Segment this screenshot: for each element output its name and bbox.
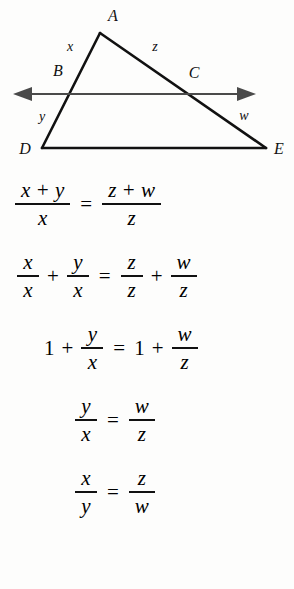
fraction-term-3: z z bbox=[121, 251, 143, 302]
fraction-left-4: y x bbox=[75, 395, 97, 446]
arrow-left-icon bbox=[13, 87, 32, 101]
numerator: x bbox=[17, 251, 38, 276]
plus-sign: + bbox=[147, 336, 169, 361]
equation-row-1: x + y x = z + w z bbox=[0, 168, 294, 240]
segment-label-x: x bbox=[66, 39, 74, 54]
denominator: z bbox=[174, 349, 194, 374]
numerator: y bbox=[75, 395, 96, 420]
fraction-term-2: y x bbox=[67, 251, 89, 302]
denominator: x bbox=[82, 349, 103, 374]
numerator: w bbox=[172, 323, 198, 348]
numerator: w bbox=[171, 251, 197, 276]
denominator: z bbox=[173, 277, 193, 302]
denominator: x bbox=[67, 277, 88, 302]
fraction-right-4: w z bbox=[129, 395, 155, 446]
equation-row-5: x y = z w bbox=[0, 456, 294, 528]
equation-row-2: x x + y x = z z + w z bbox=[0, 240, 294, 312]
denominator: x bbox=[17, 277, 38, 302]
arrow-right-icon bbox=[237, 87, 256, 101]
segment-label-w: w bbox=[239, 108, 249, 123]
fraction-left-5: x y bbox=[75, 467, 97, 518]
geometry-figure: A B C D E x z y w bbox=[0, 0, 294, 170]
equation-list: x + y x = z + w z x x + y x = z z + bbox=[0, 168, 294, 528]
denominator: y bbox=[75, 493, 96, 518]
denominator: x bbox=[75, 421, 96, 446]
segment-label-z: z bbox=[151, 39, 158, 54]
numerator: z bbox=[132, 467, 152, 492]
vertex-label-D: D bbox=[18, 140, 31, 157]
equals-sign: = bbox=[100, 408, 126, 433]
denominator: z bbox=[122, 277, 142, 302]
segment-label-y: y bbox=[37, 109, 46, 124]
numerator: y bbox=[67, 251, 88, 276]
numerator: z + w bbox=[102, 179, 161, 204]
equation-row-3: 1 + y x = 1 + w z bbox=[0, 312, 294, 384]
vertex-label-C: C bbox=[189, 64, 200, 81]
plus-sign: + bbox=[57, 336, 79, 361]
numerator: x + y bbox=[15, 179, 70, 204]
literal-one-left: 1 bbox=[42, 336, 57, 361]
vertex-label-A: A bbox=[107, 7, 118, 24]
plus-sign: + bbox=[42, 264, 64, 289]
equals-sign: = bbox=[73, 192, 99, 217]
numerator: x bbox=[75, 467, 96, 492]
fraction-left-3: y x bbox=[81, 323, 103, 374]
fraction-right-5: z w bbox=[129, 467, 155, 518]
equals-sign: = bbox=[92, 264, 118, 289]
fraction-term-4: w z bbox=[171, 251, 197, 302]
plus-sign: + bbox=[146, 264, 168, 289]
fraction-right-1: z + w z bbox=[102, 179, 161, 230]
numerator: y bbox=[82, 323, 103, 348]
equals-sign: = bbox=[100, 480, 126, 505]
fraction-term-1: x x bbox=[17, 251, 39, 302]
fraction-right-3: w z bbox=[172, 323, 198, 374]
vertex-label-E: E bbox=[273, 140, 284, 157]
equals-sign: = bbox=[106, 336, 132, 361]
numerator: w bbox=[129, 395, 155, 420]
fraction-left-1: x + y x bbox=[15, 179, 70, 230]
denominator: x bbox=[32, 205, 53, 230]
denominator: z bbox=[121, 205, 141, 230]
denominator: z bbox=[132, 421, 152, 446]
equation-row-4: y x = w z bbox=[0, 384, 294, 456]
numerator: z bbox=[122, 251, 142, 276]
literal-one-right: 1 bbox=[132, 336, 147, 361]
vertex-label-B: B bbox=[53, 62, 63, 79]
triangle-diagram-svg: A B C D E x z y w bbox=[0, 0, 294, 170]
denominator: w bbox=[129, 493, 155, 518]
